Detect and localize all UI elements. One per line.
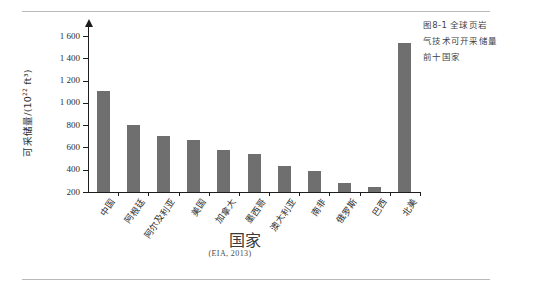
x-tick-label: 南非 <box>308 196 329 219</box>
y-axis-title: 可采储量/(1022 ft³) <box>20 53 34 173</box>
x-tick-label: 俄罗斯 <box>333 196 359 226</box>
y-tick <box>83 125 88 126</box>
y-tick-label: 1 600 <box>34 32 80 41</box>
y-tick-label: 400 <box>34 165 80 174</box>
x-tick <box>148 192 149 196</box>
source-note: (EIA, 2013) <box>150 249 310 258</box>
x-tick-label-text: 墨西哥 <box>242 196 268 226</box>
x-tick <box>329 192 330 196</box>
x-axis-title: 国家 <box>185 227 305 251</box>
y-tick <box>83 103 88 104</box>
bar <box>157 136 170 192</box>
x-tick-label-text: 南非 <box>308 196 329 219</box>
bar <box>217 150 230 192</box>
figure-page: 图8-1 全球页岩 气技术可开采储量 前十国家 2004006008001 00… <box>0 0 549 292</box>
x-tick-label: 加拿大 <box>212 196 238 226</box>
bar-chart: 2004006008001 0001 2001 4001 600 可采储量/(1… <box>0 0 549 292</box>
y-tick-label: 800 <box>34 121 80 130</box>
y-tick-label: 1 200 <box>34 76 80 85</box>
x-tick <box>179 192 180 196</box>
x-tick-label: 美国 <box>187 196 208 219</box>
bar <box>97 91 110 192</box>
x-tick <box>420 192 421 196</box>
y-tick <box>83 58 88 59</box>
y-axis-title-tail: ft³) <box>22 69 33 87</box>
bar <box>278 166 291 192</box>
bar <box>248 154 261 192</box>
x-tick-label: 巴西 <box>368 196 389 219</box>
y-tick-label: 1 400 <box>34 54 80 63</box>
x-tick-label: 阿根廷 <box>121 196 147 226</box>
y-tick <box>83 36 88 37</box>
y-axis-title-exponent: 22 <box>21 88 28 96</box>
y-tick <box>83 170 88 171</box>
x-tick <box>299 192 300 196</box>
bar <box>127 125 140 192</box>
x-tick-label: 墨西哥 <box>242 196 268 226</box>
x-tick <box>360 192 361 196</box>
x-tick <box>118 192 119 196</box>
y-tick-label: 1 000 <box>34 98 80 107</box>
bar <box>308 171 321 192</box>
x-axis-line <box>88 192 420 193</box>
y-tick <box>83 192 88 193</box>
y-axis-arrow-icon <box>85 19 93 27</box>
x-tick <box>269 192 270 196</box>
x-tick <box>390 192 391 196</box>
x-tick-label-text: 中国 <box>97 196 118 219</box>
bar <box>368 187 381 192</box>
x-tick-label-text: 北美 <box>398 196 419 219</box>
x-tick-label: 北美 <box>398 196 419 219</box>
y-tick <box>83 81 88 82</box>
x-tick-label: 中国 <box>97 196 118 219</box>
x-tick-label-text: 阿根廷 <box>121 196 147 226</box>
x-tick-label-text: 巴西 <box>368 196 389 219</box>
y-axis-line <box>88 26 89 192</box>
bar <box>338 183 351 192</box>
x-tick <box>239 192 240 196</box>
bar <box>398 43 411 192</box>
y-tick <box>83 147 88 148</box>
y-tick-label: 600 <box>34 143 80 152</box>
y-tick-label: 200 <box>34 188 80 197</box>
x-tick <box>209 192 210 196</box>
x-tick-label-text: 俄罗斯 <box>333 196 359 226</box>
bar <box>187 140 200 192</box>
x-tick-label-text: 加拿大 <box>212 196 238 226</box>
y-axis-title-base: 可采储量/(10 <box>22 96 33 157</box>
x-tick-label-text: 美国 <box>187 196 208 219</box>
